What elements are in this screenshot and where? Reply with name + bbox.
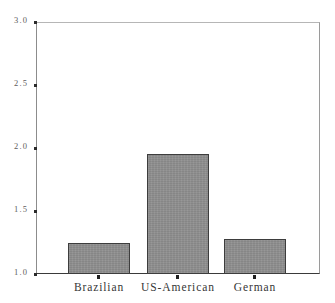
x-axis-tick-mark xyxy=(253,275,256,279)
x-axis-tick-label-german: German xyxy=(200,281,310,293)
x-axis: Brazilian US-American German xyxy=(0,0,335,303)
x-axis-tick-mark xyxy=(97,275,100,279)
bar-chart: 3.0 2.5 2.0 1.5 1.0 Brazilian US-America… xyxy=(0,0,335,303)
x-axis-tick-mark xyxy=(176,275,179,279)
